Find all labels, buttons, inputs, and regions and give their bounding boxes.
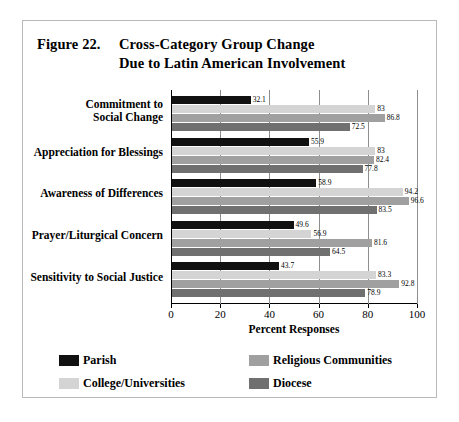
bar <box>172 114 385 122</box>
bar-value-label: 43.7 <box>279 262 294 270</box>
legend-label: Parish <box>83 353 116 368</box>
bar <box>172 147 375 155</box>
bar-row: 72.5 <box>172 123 417 131</box>
bar <box>172 289 365 297</box>
bar-value-label: 81.6 <box>372 239 387 247</box>
bar-group: Commitment toSocial Change32.18386.872.5 <box>172 96 417 126</box>
bar-row: 86.8 <box>172 114 417 122</box>
bar <box>172 248 330 256</box>
x-tick-label: 100 <box>409 308 426 320</box>
figure-title-line-2: Due to Latin American Involvement <box>119 54 429 73</box>
bar-row: 83 <box>172 105 417 113</box>
legend-item: Parish <box>59 353 229 368</box>
legend-swatch <box>249 378 269 389</box>
bar <box>172 138 309 146</box>
figure-panel: Figure 22. Cross-Category Group Change D… <box>22 20 437 398</box>
bar-value-label: 32.1 <box>251 96 266 104</box>
legend-item: Religious Communities <box>249 353 392 368</box>
bar-value-label: 49.6 <box>294 221 309 229</box>
bar-row: 82.4 <box>172 156 417 164</box>
bar-value-label: 86.8 <box>385 114 400 122</box>
category-label: Awareness of Differences <box>22 187 172 201</box>
bar-row: 92.8 <box>172 280 417 288</box>
bar-row: 56.9 <box>172 230 417 238</box>
legend-label: Diocese <box>273 376 312 391</box>
bar-row: 94.2 <box>172 188 417 196</box>
bar-value-label: 96.6 <box>409 197 424 205</box>
x-tick-label: 40 <box>264 308 275 320</box>
bar-row: 83 <box>172 147 417 155</box>
bar-group: Appreciation for Blessings55.98382.477.8 <box>172 138 417 168</box>
bar-row: 32.1 <box>172 96 417 104</box>
figure-number: Figure 22. <box>37 35 119 54</box>
x-tick-label: 0 <box>168 308 174 320</box>
x-tick-label: 80 <box>362 308 373 320</box>
category-label: Appreciation for Blessings <box>22 146 172 160</box>
bar-value-label: 56.9 <box>311 230 326 238</box>
bar-row: 64.5 <box>172 248 417 256</box>
bar-value-label: 83.3 <box>376 271 391 279</box>
bar-row: 55.9 <box>172 138 417 146</box>
bar-group: Prayer/Liturgical Concern49.656.981.664.… <box>172 221 417 251</box>
bar <box>172 221 294 229</box>
bar <box>172 280 399 288</box>
category-label: Sensitivity to Social Justice <box>22 271 172 285</box>
bar <box>172 239 372 247</box>
x-tick-label: 60 <box>313 308 324 320</box>
bar-row: 83.5 <box>172 206 417 214</box>
bar-value-label: 64.5 <box>330 248 345 256</box>
bar <box>172 188 403 196</box>
bar <box>172 105 375 113</box>
bar-value-label: 92.8 <box>399 280 414 288</box>
bar <box>172 156 374 164</box>
bar-row: 83.3 <box>172 271 417 279</box>
bar-value-label: 58.9 <box>316 179 331 187</box>
bar-row: 49.6 <box>172 221 417 229</box>
x-axis: 020406080100 <box>171 304 417 320</box>
bar <box>172 271 376 279</box>
legend-swatch <box>59 378 79 389</box>
figure-title-line-1: Cross-Category Group Change <box>119 35 429 54</box>
bar-value-label: 72.5 <box>350 123 365 131</box>
bar-value-label: 55.9 <box>309 138 324 146</box>
bar <box>172 206 377 214</box>
legend-row: College/UniversitiesDiocese <box>59 376 419 391</box>
legend-label: Religious Communities <box>273 353 392 368</box>
bar-row: 77.8 <box>172 165 417 173</box>
bar <box>172 230 311 238</box>
figure-title-spacer <box>37 54 119 73</box>
bar-value-label: 78.9 <box>365 289 380 297</box>
bar <box>172 262 279 270</box>
bar-value-label: 82.4 <box>374 156 389 164</box>
x-tick-label: 20 <box>215 308 226 320</box>
bar <box>172 179 316 187</box>
bar-value-label: 83 <box>375 147 385 155</box>
category-label: Prayer/Liturgical Concern <box>22 229 172 243</box>
chart-plot-area: Commitment toSocial Change32.18386.872.5… <box>171 90 417 304</box>
bar-row: 78.9 <box>172 289 417 297</box>
legend-item: College/Universities <box>59 376 229 391</box>
category-label: Commitment toSocial Change <box>22 98 172 125</box>
bar <box>172 123 350 131</box>
legend-swatch <box>249 355 269 366</box>
legend-item: Diocese <box>249 376 312 391</box>
bar-group: Sensitivity to Social Justice43.783.392.… <box>172 262 417 292</box>
bar-row: 81.6 <box>172 239 417 247</box>
bar-value-label: 83.5 <box>377 206 392 214</box>
bar-value-label: 94.2 <box>403 188 418 196</box>
bar-value-label: 77.8 <box>363 165 378 173</box>
chart-legend: ParishReligious CommunitiesCollege/Unive… <box>59 353 419 399</box>
bar-value-label: 83 <box>375 105 385 113</box>
bar-row: 58.9 <box>172 179 417 187</box>
bar-row: 96.6 <box>172 197 417 205</box>
bar-group: Awareness of Differences58.994.296.683.5 <box>172 179 417 209</box>
legend-row: ParishReligious Communities <box>59 353 419 368</box>
legend-label: College/Universities <box>83 376 185 391</box>
bar <box>172 96 251 104</box>
figure-title: Figure 22. Cross-Category Group Change D… <box>37 35 429 73</box>
bar-row: 43.7 <box>172 262 417 270</box>
legend-swatch <box>59 355 79 366</box>
x-axis-title: Percent Responses <box>171 323 417 335</box>
bar <box>172 165 363 173</box>
bar <box>172 197 409 205</box>
